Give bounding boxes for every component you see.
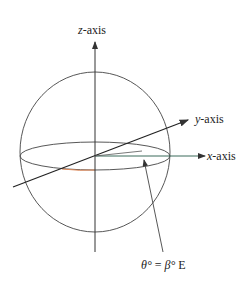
- angle-pointer-line: [144, 160, 163, 252]
- x-axis-label: x-axis: [207, 150, 236, 162]
- sphere-diagram: [0, 0, 248, 281]
- east-label: E: [175, 258, 185, 272]
- z-axis-label: z-axis: [78, 24, 106, 36]
- y-axis-line: [13, 120, 188, 187]
- y-axis-label: y-axis: [195, 113, 224, 125]
- angle-equation: θ° = β° E: [141, 259, 186, 271]
- x-axis-suffix: -axis: [212, 149, 235, 163]
- y-axis-suffix: -axis: [200, 112, 223, 126]
- equals-sign: =: [152, 258, 165, 272]
- theta-symbol: θ°: [141, 258, 152, 272]
- beta-symbol: β°: [164, 258, 175, 272]
- z-axis-suffix: -axis: [83, 23, 106, 37]
